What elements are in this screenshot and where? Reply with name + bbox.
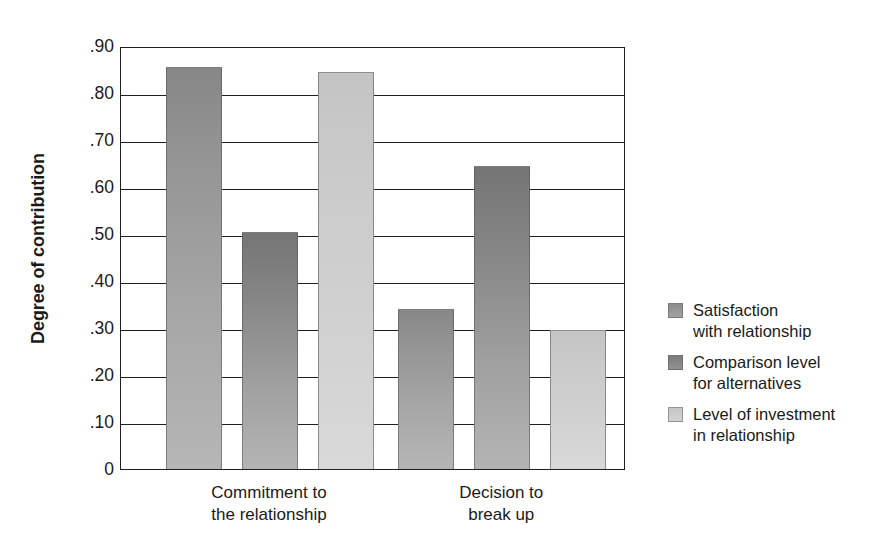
legend-entry: Comparison level for alternatives	[668, 352, 880, 395]
y-axis-title: Degree of contribution	[28, 119, 49, 379]
y-axis-tick-labels: 0.10.20.30.40.50.60.70.80.90	[60, 0, 114, 552]
y-tick-label: .10	[60, 414, 114, 432]
y-tick-label: .60	[60, 179, 114, 197]
y-tick-label: .90	[60, 38, 114, 56]
chart-legend: Satisfaction with relationshipComparison…	[668, 300, 880, 456]
plot-area	[120, 47, 625, 470]
legend-entry: Level of investment in relationship	[668, 404, 880, 447]
x-category-label: Commitment to the relationship	[159, 482, 379, 527]
bar	[398, 309, 454, 469]
bar	[242, 232, 298, 469]
legend-label: Satisfaction with relationship	[693, 300, 811, 343]
x-category-label: Decision to break up	[391, 482, 611, 527]
y-tick-label: .70	[60, 132, 114, 150]
bar	[550, 330, 606, 469]
legend-swatch-icon	[668, 407, 683, 422]
legend-label: Comparison level for alternatives	[693, 352, 820, 395]
y-tick-label: 0	[60, 461, 114, 479]
bar	[166, 67, 222, 469]
legend-swatch-icon	[668, 303, 683, 318]
bar	[318, 72, 374, 469]
y-tick-label: .20	[60, 367, 114, 385]
y-tick-label: .80	[60, 85, 114, 103]
y-tick-label: .40	[60, 273, 114, 291]
bar-chart-figure: Degree of contribution 0.10.20.30.40.50.…	[0, 0, 885, 552]
legend-entry: Satisfaction with relationship	[668, 300, 880, 343]
bar	[474, 166, 530, 469]
y-tick-label: .30	[60, 320, 114, 338]
y-tick-label: .50	[60, 226, 114, 244]
legend-swatch-icon	[668, 355, 683, 370]
legend-label: Level of investment in relationship	[693, 404, 835, 447]
